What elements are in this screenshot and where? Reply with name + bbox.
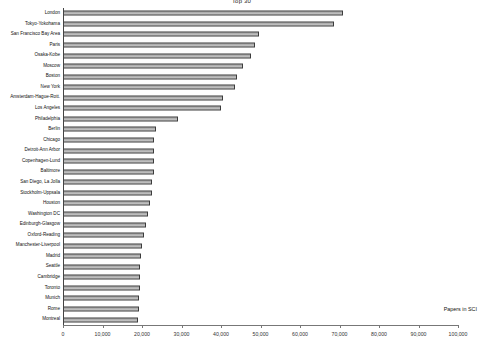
bar-track bbox=[63, 50, 483, 61]
category-label: San Francisco Bay Area bbox=[0, 32, 63, 37]
x-tick-label: 20,000 bbox=[134, 331, 150, 337]
bar-row: Tokyo-Yokohama bbox=[0, 19, 483, 30]
bar-track bbox=[63, 19, 483, 30]
category-label: Baltimore bbox=[0, 169, 63, 174]
bar-track bbox=[63, 114, 483, 125]
bar-track bbox=[63, 135, 483, 146]
bar-row: San Francisco Bay Area bbox=[0, 29, 483, 40]
x-tick-mark bbox=[261, 325, 262, 328]
category-label: Boston bbox=[0, 74, 63, 79]
category-label: Moscow bbox=[0, 64, 63, 69]
x-tick-mark bbox=[300, 325, 301, 328]
bar-row: Montreal bbox=[0, 314, 483, 325]
category-label: London bbox=[0, 11, 63, 16]
bar bbox=[63, 169, 154, 174]
category-label: San Diego, La Jolla bbox=[0, 180, 63, 185]
x-tick-mark bbox=[63, 325, 64, 328]
category-label: Los Angeles bbox=[0, 106, 63, 111]
bar bbox=[63, 21, 334, 26]
bar-track bbox=[63, 156, 483, 167]
x-tick-label: 60,000 bbox=[292, 331, 308, 337]
bar-row: Detroit-Ann Arbor bbox=[0, 145, 483, 156]
x-tick-mark bbox=[103, 325, 104, 328]
bar bbox=[63, 11, 343, 16]
bar bbox=[63, 201, 150, 206]
x-tick-label: 10,000 bbox=[95, 331, 111, 337]
bar-row: Edinburgh-Glasgow bbox=[0, 219, 483, 230]
bar-row: Berlin bbox=[0, 124, 483, 135]
bar bbox=[63, 74, 237, 79]
y-axis-line bbox=[63, 8, 64, 325]
bar-track bbox=[63, 262, 483, 273]
category-label: Houston bbox=[0, 201, 63, 206]
bar-row: Boston bbox=[0, 71, 483, 82]
bar-track bbox=[63, 314, 483, 325]
x-tick-label: 100,000 bbox=[449, 331, 468, 337]
bar bbox=[63, 42, 255, 47]
x-tick-mark bbox=[221, 325, 222, 328]
bar-row: Munich bbox=[0, 293, 483, 304]
bar-row: Copenhagen-Lund bbox=[0, 156, 483, 167]
category-label: Chicago bbox=[0, 138, 63, 143]
x-tick-label: 80,000 bbox=[371, 331, 387, 337]
bar-track bbox=[63, 8, 483, 19]
bar bbox=[63, 64, 243, 69]
bar-track bbox=[63, 124, 483, 135]
bar-track bbox=[63, 230, 483, 241]
bar bbox=[63, 138, 154, 143]
bar-track bbox=[63, 251, 483, 262]
x-tick-mark bbox=[458, 325, 459, 328]
x-tick-mark bbox=[379, 325, 380, 328]
bar-row: Toronto bbox=[0, 283, 483, 294]
bar-track bbox=[63, 293, 483, 304]
category-label: Berlin bbox=[0, 127, 63, 132]
bar-track bbox=[63, 71, 483, 82]
category-label: Rome bbox=[0, 307, 63, 312]
bar bbox=[63, 53, 251, 58]
bar bbox=[63, 211, 148, 216]
bar-track bbox=[63, 304, 483, 315]
bar bbox=[63, 264, 140, 269]
bar bbox=[63, 190, 152, 195]
category-label: Washington DC bbox=[0, 212, 63, 217]
bar-track bbox=[63, 188, 483, 199]
category-label: Edinburgh-Glasgow bbox=[0, 222, 63, 227]
bar-row: Stockholm-Uppsala bbox=[0, 188, 483, 199]
bar-track bbox=[63, 103, 483, 114]
bar-track bbox=[63, 177, 483, 188]
bar-track bbox=[63, 272, 483, 283]
x-tick-label: 30,000 bbox=[174, 331, 190, 337]
x-axis-label: Papers in SCI bbox=[444, 306, 477, 312]
category-label: Cambridge bbox=[0, 275, 63, 280]
bar bbox=[63, 243, 142, 248]
bar-row: Washington DC bbox=[0, 209, 483, 220]
bar bbox=[63, 159, 154, 164]
bar-track bbox=[63, 145, 483, 156]
category-label: Philadelphia bbox=[0, 117, 63, 122]
bar-track bbox=[63, 29, 483, 40]
category-label: Toronto bbox=[0, 286, 63, 291]
bar-row: Seattle bbox=[0, 262, 483, 273]
bar-track bbox=[63, 82, 483, 93]
bar-row: Osaka-Kobe bbox=[0, 50, 483, 61]
bar bbox=[63, 275, 140, 280]
category-label: Montreal bbox=[0, 317, 63, 322]
x-tick-label: 90,000 bbox=[411, 331, 427, 337]
bar bbox=[63, 95, 223, 100]
bar bbox=[63, 233, 144, 238]
bar bbox=[63, 180, 152, 185]
bar-row: Rome bbox=[0, 304, 483, 315]
category-label: Copenhagen-Lund bbox=[0, 159, 63, 164]
category-label: Manchester-Liverpool bbox=[0, 243, 63, 248]
bar bbox=[63, 296, 139, 301]
bar-row: Cambridge bbox=[0, 272, 483, 283]
bar-track bbox=[63, 283, 483, 294]
category-label: Tokyo-Yokohama bbox=[0, 22, 63, 27]
chart-title: Top 30 bbox=[0, 0, 483, 4]
bar-row: Moscow bbox=[0, 61, 483, 72]
bar-row: Madrid bbox=[0, 251, 483, 262]
bar-track bbox=[63, 240, 483, 251]
bar bbox=[63, 285, 140, 290]
x-tick-mark bbox=[419, 325, 420, 328]
x-tick-mark bbox=[182, 325, 183, 328]
